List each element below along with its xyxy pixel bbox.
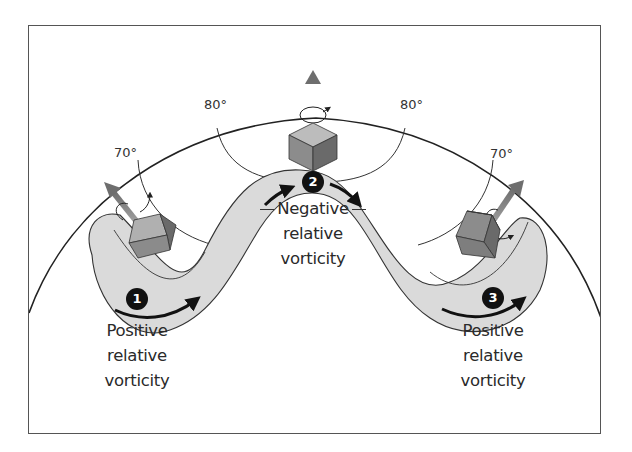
station-badge-1: 1 <box>126 288 148 310</box>
station-2-line2: relative <box>233 221 393 246</box>
station-3-line3: vorticity <box>433 368 553 393</box>
vorticity-diagram: 80° 80° 70° 70° 1 2 3 Positive relative … <box>0 0 632 452</box>
leader-line-left <box>260 209 274 211</box>
latitude-label-80-left: 80° <box>204 97 227 112</box>
station-2-line3: vorticity <box>233 246 393 271</box>
station-badge-3: 3 <box>482 287 504 309</box>
station-3-line2: relative <box>433 343 553 368</box>
station-3-description: Positive relative vorticity <box>433 318 553 393</box>
station-1-line2: relative <box>77 343 197 368</box>
latitude-label-70-left: 70° <box>114 145 137 160</box>
station-2-description: Negative relative vorticity <box>233 196 393 271</box>
latitude-label-70-right: 70° <box>490 146 513 161</box>
latitude-label-80-right: 80° <box>400 97 423 112</box>
cube-2-icon <box>289 70 337 171</box>
station-badge-2: 2 <box>302 171 324 193</box>
station-2-line1: Negative <box>277 199 349 218</box>
station-1-line1: Positive <box>77 318 197 343</box>
station-1-line3: vorticity <box>77 368 197 393</box>
station-3-line1: Positive <box>433 318 553 343</box>
station-1-description: Positive relative vorticity <box>77 318 197 393</box>
leader-line-right <box>352 209 366 211</box>
